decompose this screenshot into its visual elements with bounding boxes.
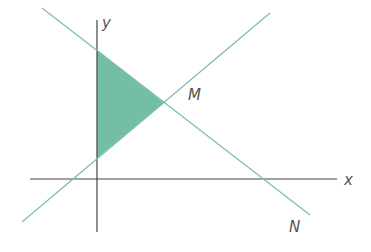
line-n bbox=[42, 8, 310, 215]
point-m-label: M bbox=[188, 86, 201, 104]
line-m bbox=[22, 13, 270, 222]
y-axis-label: y bbox=[101, 14, 112, 32]
diagram-canvas: y x M N bbox=[0, 0, 371, 252]
x-axis-label: x bbox=[343, 171, 353, 189]
shaded-region bbox=[97, 50, 164, 158]
line-n-label: N bbox=[289, 218, 300, 236]
